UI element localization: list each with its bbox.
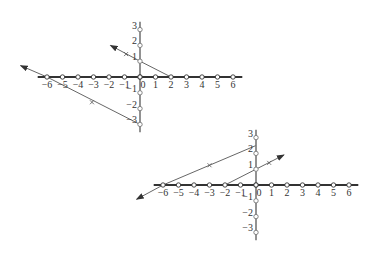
x-tick-label: 4: [200, 79, 205, 90]
y-tick-point: [254, 199, 258, 203]
y-tick-point: [254, 167, 258, 171]
x-tick-label: −3: [88, 79, 99, 90]
x-tick-label: 1: [153, 79, 158, 90]
x-tick-label: 0: [141, 79, 146, 90]
cross-marker-icon: [208, 163, 212, 167]
x-tick-label: −6: [158, 187, 169, 198]
x-tick-label: 6: [231, 79, 236, 90]
x-tick-label: −4: [189, 187, 200, 198]
x-tick-label: 5: [215, 79, 220, 90]
y-tick-label: 2: [248, 143, 253, 154]
y-tick-label: 3: [132, 20, 137, 31]
y-tick-label: 1: [248, 159, 253, 170]
x-tick-label: 6: [347, 187, 352, 198]
x-tick-label: −5: [57, 79, 68, 90]
cross-marker-icon: [90, 100, 94, 104]
x-tick-label: −3: [204, 187, 215, 198]
y-tick-point: [138, 106, 142, 110]
y-tick-label: 2: [132, 35, 137, 46]
y-tick-label: 3: [248, 128, 253, 139]
y-tick-point: [254, 135, 258, 139]
x-tick-label: −2: [220, 187, 231, 198]
y-tick-label: 1: [132, 51, 137, 62]
y-tick-point: [254, 230, 258, 234]
x-tick-label: 0: [257, 187, 262, 198]
x-tick-label: 5: [331, 187, 336, 198]
x-tick-label: 1: [269, 187, 274, 198]
x-tick-label: −2: [104, 79, 115, 90]
y-tick-point: [254, 151, 258, 155]
y-tick-point: [138, 122, 142, 126]
origin-point: [138, 75, 142, 79]
diagram-canvas: −6−5−4−3−2−10123456321−1−2−3 −6−5−4−3−2−…: [0, 0, 375, 262]
line-b: [21, 66, 140, 125]
x-tick-label: 2: [169, 79, 174, 90]
y-tick-label: −1: [126, 83, 137, 94]
y-tick-label: −1: [242, 191, 253, 202]
origin-point: [254, 183, 258, 187]
x-tick-label: −6: [42, 79, 53, 90]
y-tick-label: −3: [242, 222, 253, 233]
y-tick-point: [138, 43, 142, 47]
x-tick-label: −5: [173, 187, 184, 198]
y-tick-label: −2: [126, 99, 137, 110]
y-tick-point: [254, 214, 258, 218]
graph-top: −6−5−4−3−2−10123456321−1−2−3: [21, 20, 243, 133]
y-tick-label: −3: [126, 114, 137, 125]
x-tick-label: −4: [73, 79, 84, 90]
x-tick-label: 3: [300, 187, 305, 198]
x-tick-label: 4: [316, 187, 321, 198]
y-tick-label: −2: [242, 207, 253, 218]
y-tick-point: [138, 91, 142, 95]
graph-bottom: −6−5−4−3−2−10123456321−1−2−3: [137, 128, 359, 241]
x-tick-label: 2: [285, 187, 290, 198]
y-tick-point: [138, 59, 142, 63]
y-tick-point: [138, 27, 142, 31]
x-tick-label: 3: [184, 79, 189, 90]
